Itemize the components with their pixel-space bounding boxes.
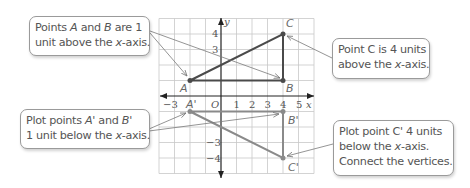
x-tick-4: 4 [280, 99, 286, 110]
callout-c-prime-below: Plot point C' 4 units below the x-axis. … [333, 120, 454, 176]
y-tick-4: 4 [212, 28, 218, 39]
label-b-prime: B' [288, 114, 299, 127]
y-tick-neg3: −3 [206, 137, 221, 148]
label-a: A [179, 82, 188, 95]
y-axis-label: y [223, 16, 230, 27]
callout-c-above: Point C is 4 units above the x-axis. [332, 38, 430, 79]
x-tick-neg3: −3 [163, 99, 178, 110]
y-tick-neg4: −4 [206, 153, 221, 164]
label-c: C [286, 17, 294, 30]
callout-ab-above: Points A and B are 1 unit above the x-ax… [29, 16, 150, 56]
point-b-prime [281, 109, 286, 114]
x-tick-3: 3 [265, 99, 271, 110]
label-b: B [286, 82, 294, 95]
callout-ab-prime-below: Plot points A' and B' 1 unit below the x… [20, 109, 150, 149]
point-c-prime [281, 156, 286, 161]
label-a-prime: A' [185, 98, 197, 111]
x-axis-label: x [306, 99, 312, 110]
x-tick-5: 5 [296, 99, 302, 110]
x-tick-2: 2 [249, 99, 255, 110]
origin-label: O [211, 99, 219, 110]
x-tick-1: 1 [234, 99, 240, 110]
label-c-prime: C' [288, 161, 299, 174]
point-b [281, 78, 286, 83]
point-c [281, 32, 286, 37]
point-a [188, 78, 193, 83]
